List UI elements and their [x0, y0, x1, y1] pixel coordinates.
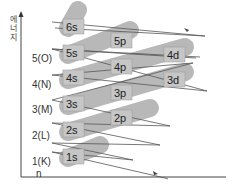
svg-text:1s: 1s: [66, 151, 78, 163]
axis-title-char: 지: [10, 33, 17, 42]
orbital-3p: 3p: [111, 85, 132, 100]
n-label: n: [36, 168, 42, 179]
orbital-3d: 3d: [164, 72, 185, 87]
orbital-5p: 5p: [111, 33, 132, 48]
orbital-1s: 1s: [63, 149, 84, 164]
orbital-4d: 4d: [164, 47, 185, 62]
orbital-2s: 2s: [63, 122, 84, 137]
shell-label: 2(L): [32, 130, 50, 141]
orbital-4p: 4p: [111, 59, 132, 74]
shell-label: 3(M): [32, 104, 53, 115]
shell-label: 5(O): [32, 53, 52, 64]
svg-text:4p: 4p: [114, 61, 126, 73]
svg-text:3s: 3s: [66, 98, 78, 110]
svg-text:4d: 4d: [167, 49, 179, 61]
svg-text:5p: 5p: [114, 35, 126, 47]
energy-axis-arrow-icon: [19, 11, 24, 17]
shell-label: 4(N): [32, 79, 51, 90]
aufbau-diagram: 에 너 지 5(O) 4(N) 3(M) 2(L) 1(K) n 6s 5s 4…: [0, 0, 234, 191]
filling-arrow-head-bottom: [153, 171, 158, 175]
svg-text:5s: 5s: [66, 47, 78, 59]
shell-label: 1(K): [32, 156, 51, 167]
orbital-3s: 3s: [63, 96, 84, 111]
axis-title-char: 너: [10, 23, 17, 33]
filling-arrow-head-top: [184, 28, 189, 32]
axis-title-char: 에: [10, 15, 17, 24]
svg-text:3d: 3d: [167, 74, 179, 86]
orbital-2p: 2p: [111, 110, 132, 125]
svg-text:6s: 6s: [66, 21, 78, 33]
orbital-5s: 5s: [63, 45, 84, 60]
orbital-4s: 4s: [63, 70, 84, 85]
svg-text:2p: 2p: [114, 112, 126, 124]
svg-text:3p: 3p: [114, 87, 126, 99]
orbital-6s: 6s: [63, 19, 84, 34]
svg-text:2s: 2s: [66, 124, 78, 136]
svg-text:4s: 4s: [66, 72, 78, 84]
